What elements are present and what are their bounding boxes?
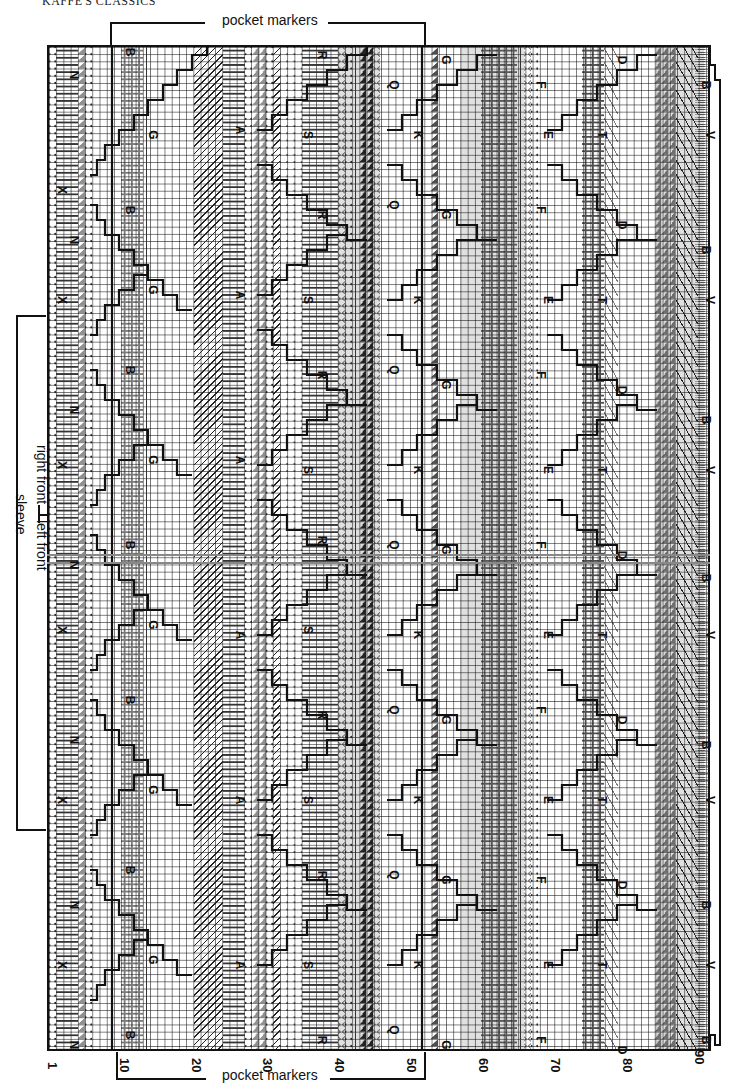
colour-letter-g: G xyxy=(147,454,159,466)
colour-letter-g: G xyxy=(440,209,452,221)
stitch-tick-20: 20 xyxy=(189,1058,204,1072)
colour-letter-q: Q xyxy=(388,199,400,211)
colour-letter-g: G xyxy=(440,54,452,66)
colour-letter-g: G xyxy=(147,954,159,966)
colour-letter-r: R xyxy=(316,1034,328,1046)
colour-letter-e: E xyxy=(542,129,554,141)
top-pocket-marker-right-bar xyxy=(328,22,425,24)
top-pocket-marker-left-stem xyxy=(110,22,112,45)
colour-letter-a: A xyxy=(234,629,246,641)
colour-letter-x: X xyxy=(56,624,68,636)
colour-letter-v: V xyxy=(704,129,716,141)
colour-letter-b: B xyxy=(700,1034,712,1046)
colour-letter-n: N xyxy=(68,69,80,81)
colour-letter-b: B xyxy=(124,204,136,216)
colour-letter-g: G xyxy=(147,129,159,141)
colour-letter-b: B xyxy=(700,899,712,911)
colour-letter-d: D xyxy=(616,1044,628,1056)
colour-letter-n: N xyxy=(68,1039,80,1051)
top-pocket-markers-label: pocket markers xyxy=(222,12,318,28)
colour-letter-n: N xyxy=(68,404,80,416)
colour-letter-d: D xyxy=(616,384,628,396)
sleeve-bracket-top xyxy=(16,315,46,317)
bottom-pocket-marker-right-bar xyxy=(330,1078,424,1080)
colour-letter-s: S xyxy=(302,624,314,636)
colour-letter-t: T xyxy=(596,294,608,306)
colour-letter-t: T xyxy=(596,794,608,806)
stitch-tick-10: 10 xyxy=(117,1058,132,1072)
colour-letter-g: G xyxy=(147,784,159,796)
colour-letter-t: T xyxy=(596,129,608,141)
front-divider-tick xyxy=(38,514,47,516)
colour-letter-b: B xyxy=(124,1029,136,1041)
colour-letter-f: F xyxy=(535,539,547,551)
colour-letter-r: R xyxy=(316,209,328,221)
colour-letter-x: X xyxy=(56,184,68,196)
top-pocket-marker-left-bar xyxy=(110,22,205,24)
bottom-pocket-marker-left-stem xyxy=(116,1052,118,1080)
colour-letter-v: V xyxy=(704,794,716,806)
colour-letter-a: A xyxy=(234,124,246,136)
colour-letter-b: B xyxy=(124,694,136,706)
colour-letter-k: K xyxy=(412,959,424,971)
stitch-tick-40: 40 xyxy=(332,1058,347,1072)
colour-letter-e: E xyxy=(542,959,554,971)
colour-letter-k: K xyxy=(412,129,424,141)
colour-letter-q: Q xyxy=(388,79,400,91)
colour-letter-g: G xyxy=(147,284,159,296)
colour-letter-v: V xyxy=(704,294,716,306)
colour-letter-b: B xyxy=(700,414,712,426)
colour-letter-d: D xyxy=(616,714,628,726)
colour-letter-t: T xyxy=(596,629,608,641)
sleeve-label: sleeve xyxy=(13,494,29,534)
colour-letter-n: N xyxy=(68,734,80,746)
colour-letter-v: V xyxy=(704,629,716,641)
colour-letter-n: N xyxy=(68,559,80,571)
colour-letter-d: D xyxy=(616,219,628,231)
colour-letter-f: F xyxy=(535,874,547,886)
colour-letter-x: X xyxy=(56,294,68,306)
colour-letter-x: X xyxy=(56,459,68,471)
top-pocket-marker-right-stem xyxy=(424,22,426,45)
stitch-tick-60: 60 xyxy=(476,1058,491,1072)
colour-letter-q: Q xyxy=(388,539,400,551)
colour-letter-s: S xyxy=(302,959,314,971)
colour-letter-v: V xyxy=(704,959,716,971)
colour-letter-s: S xyxy=(302,294,314,306)
colour-letter-b: B xyxy=(124,539,136,551)
stitch-tick-80: 80 xyxy=(620,1058,635,1072)
colour-letter-x: X xyxy=(56,959,68,971)
colour-letter-f: F xyxy=(535,79,547,91)
colour-letter-f: F xyxy=(535,704,547,716)
colour-letter-q: Q xyxy=(388,1024,400,1036)
colour-letter-g: G xyxy=(440,714,452,726)
bottom-pocket-marker-left-bar xyxy=(116,1078,206,1080)
colour-letter-b: B xyxy=(700,739,712,751)
colour-letter-b: B xyxy=(700,572,712,584)
sleeve-bracket-bottom xyxy=(16,829,46,831)
colour-letter-t: T xyxy=(596,959,608,971)
colour-letter-s: S xyxy=(302,794,314,806)
colour-letter-b: B xyxy=(124,364,136,376)
colour-letter-s: S xyxy=(302,129,314,141)
colour-letter-a: A xyxy=(234,289,246,301)
right-front-label: right front xyxy=(34,445,50,504)
colour-letter-d: D xyxy=(616,54,628,66)
colour-letter-e: E xyxy=(542,794,554,806)
stitch-tick-70: 70 xyxy=(548,1058,563,1072)
colour-letter-a: A xyxy=(234,959,246,971)
colour-letter-r: R xyxy=(316,49,328,61)
colour-letter-q: Q xyxy=(388,364,400,376)
colour-letter-s: S xyxy=(302,464,314,476)
colour-letter-b: B xyxy=(700,79,712,91)
colour-letter-r: R xyxy=(316,869,328,881)
colour-letter-k: K xyxy=(412,794,424,806)
colour-letter-x: X xyxy=(56,794,68,806)
bottom-pocket-marker-right-stem xyxy=(424,1052,426,1080)
colour-letter-b: B xyxy=(700,244,712,256)
colour-letter-g: G xyxy=(440,874,452,886)
colour-letter-b: B xyxy=(124,864,136,876)
bottom-pocket-markers-label: pocket markers xyxy=(222,1067,318,1083)
colour-letter-t: T xyxy=(596,464,608,476)
colour-letter-b: B xyxy=(124,46,136,58)
